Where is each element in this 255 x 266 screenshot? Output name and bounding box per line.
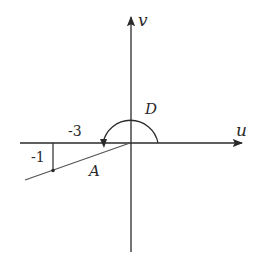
point-on-a bbox=[51, 169, 55, 173]
u-axis-label: u bbox=[236, 120, 247, 140]
complex-mapping-diagram: v u D A -3 -1 bbox=[0, 0, 255, 266]
tick-minus-3-label: -3 bbox=[68, 123, 82, 139]
line-a-label: A bbox=[87, 162, 100, 180]
region-d-label: D bbox=[144, 100, 157, 118]
tick-minus-1-label: -1 bbox=[31, 149, 45, 165]
v-axis-label: v bbox=[138, 10, 148, 30]
